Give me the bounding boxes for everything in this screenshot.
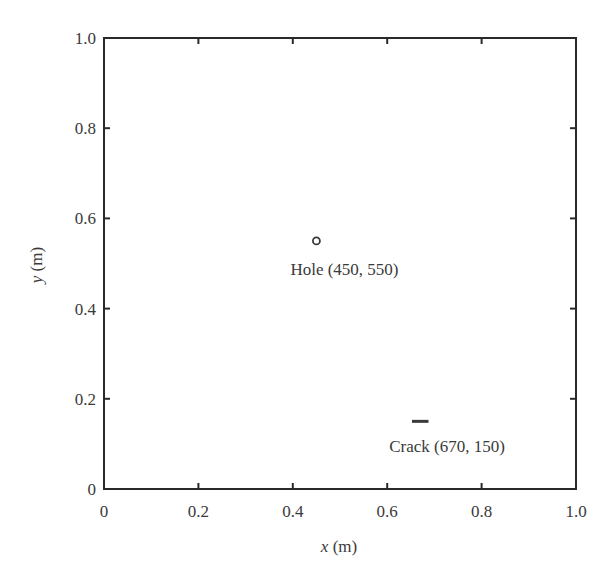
y-tick-label: 0 — [88, 480, 97, 499]
x-tick-label: 1.0 — [565, 502, 586, 521]
y-tick-label: 0.6 — [75, 209, 96, 228]
x-axis-tick-labels: 00.20.40.60.81.0 — [100, 502, 587, 521]
y-axis-label: y (m) — [27, 247, 46, 285]
y-axis-tick-labels: 00.20.40.60.81.0 — [75, 29, 97, 499]
y-tick-label: 0.2 — [75, 390, 96, 409]
x-tick-label: 0.6 — [377, 502, 398, 521]
hole-annotation: Hole (450, 550) — [290, 260, 398, 279]
crack-annotation: Crack (670, 150) — [389, 437, 505, 456]
data-markers: Hole (450, 550)Crack (670, 150) — [290, 237, 505, 456]
x-tick-label: 0.4 — [282, 502, 304, 521]
x-axis-label: x (m) — [320, 537, 357, 556]
hole-marker-icon — [313, 237, 320, 244]
y-tick-label: 0.8 — [75, 119, 96, 138]
x-tick-label: 0.2 — [188, 502, 209, 521]
x-tick-label: 0.8 — [471, 502, 492, 521]
x-tick-label: 0 — [100, 502, 109, 521]
y-tick-label: 1.0 — [75, 29, 96, 48]
y-tick-label: 0.4 — [75, 300, 97, 319]
chart-canvas: 00.20.40.60.81.0 00.20.40.60.81.0 x (m) … — [0, 0, 613, 579]
